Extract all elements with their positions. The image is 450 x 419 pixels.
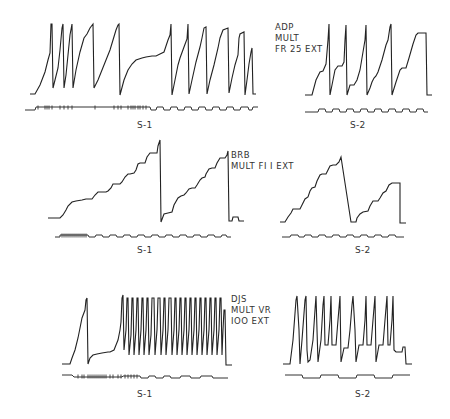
- cumulative-record-adp-s2: [305, 24, 432, 95]
- schedule-label-brb-line2: MULT FI I EXT: [231, 161, 294, 171]
- record-label-brb-s1: S-1: [137, 245, 153, 255]
- cumulative-record-brb-s1: [48, 140, 244, 222]
- schedule-label-adp-line1: ADP: [275, 22, 294, 32]
- cumulative-record-djs-s2: [283, 296, 412, 364]
- event-pen-brb-s2: [282, 235, 404, 237]
- record-label-djs-s1: S-1: [137, 389, 153, 399]
- schedule-label-brb-line1: BRB: [231, 150, 250, 160]
- event-pen-djs-s1: [62, 375, 228, 378]
- panel-brb: S-1 S-2 BRB MULT FI I EXT: [48, 140, 406, 255]
- panel-adp: S-1 S-2 ADP MULT FR 25 EXT: [25, 22, 432, 130]
- event-pen-brb-s1: [55, 235, 231, 237]
- record-label-brb-s2: S-2: [355, 245, 371, 255]
- panel-djs: S-1 S-2 DJS MULT VR IOO EXT: [62, 294, 412, 399]
- record-label-adp-s2: S-2: [350, 120, 366, 130]
- schedule-label-adp-line2: MULT: [275, 33, 300, 43]
- event-pen-djs-s2: [285, 375, 410, 378]
- cumulative-record-brb-s2: [280, 157, 406, 223]
- schedule-label-djs-line1: DJS: [231, 294, 247, 304]
- schedule-label-djs-line3: IOO EXT: [231, 316, 270, 326]
- cumulative-record-adp-s1: [30, 24, 256, 95]
- record-label-djs-s2: S-2: [355, 389, 371, 399]
- event-ticks-brb-s1: [62, 234, 86, 238]
- cumulative-record-djs-s1: [62, 295, 232, 365]
- schedule-label-djs-line2: MULT VR: [231, 305, 271, 315]
- record-label-adp-s1: S-1: [137, 120, 153, 130]
- schedule-label-adp-line3: FR 25 EXT: [275, 44, 323, 54]
- cumulative-records-figure: S-1 S-2 ADP MULT FR 25 EXT S-1 S-2 BRB M…: [0, 0, 450, 419]
- event-pen-adp-s2: [305, 109, 428, 112]
